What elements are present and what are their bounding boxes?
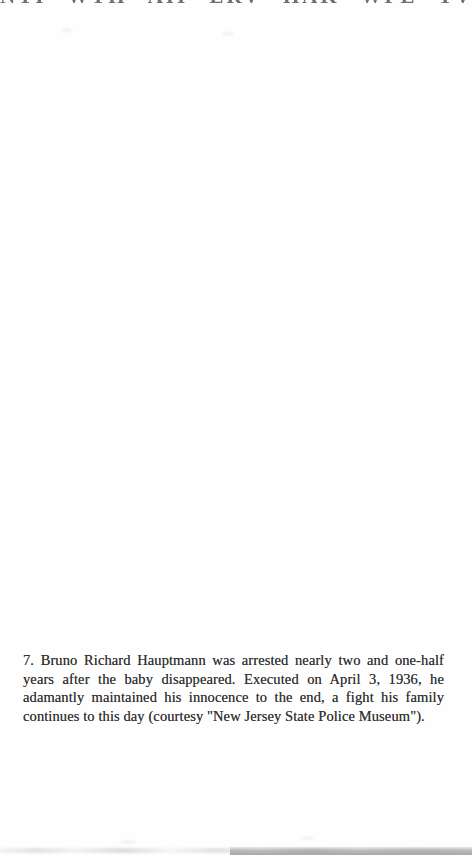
scanned-page: NTI WTH AII ERV HAK WFE TVH AEW NTL HMI …: [0, 0, 472, 855]
caption-line-1: 7. Bruno Richard Hauptmann was arrested …: [23, 651, 444, 670]
cutoff-text-fragment: NTI WTH AII ERV HAK WFE TVH AEW NTL HMI …: [0, 0, 472, 8]
top-edge-text-fragments: NTI WTH AII ERV HAK WFE TVH AEW NTL HMI …: [0, 0, 472, 9]
scan-speck: [300, 836, 314, 840]
bottom-right-edge-bar: [230, 847, 472, 855]
caption-line-2: years after the baby disappeared. Execut…: [23, 670, 444, 689]
scan-speck: [120, 840, 136, 844]
scan-speck: [62, 28, 72, 32]
scan-speck: [222, 32, 234, 36]
photo-caption: 7. Bruno Richard Hauptmann was arrested …: [23, 651, 444, 725]
caption-line-3: adamantly maintained his innocence to th…: [23, 688, 444, 707]
caption-line-4: continues to this day (courtesy "New Jer…: [23, 707, 444, 726]
